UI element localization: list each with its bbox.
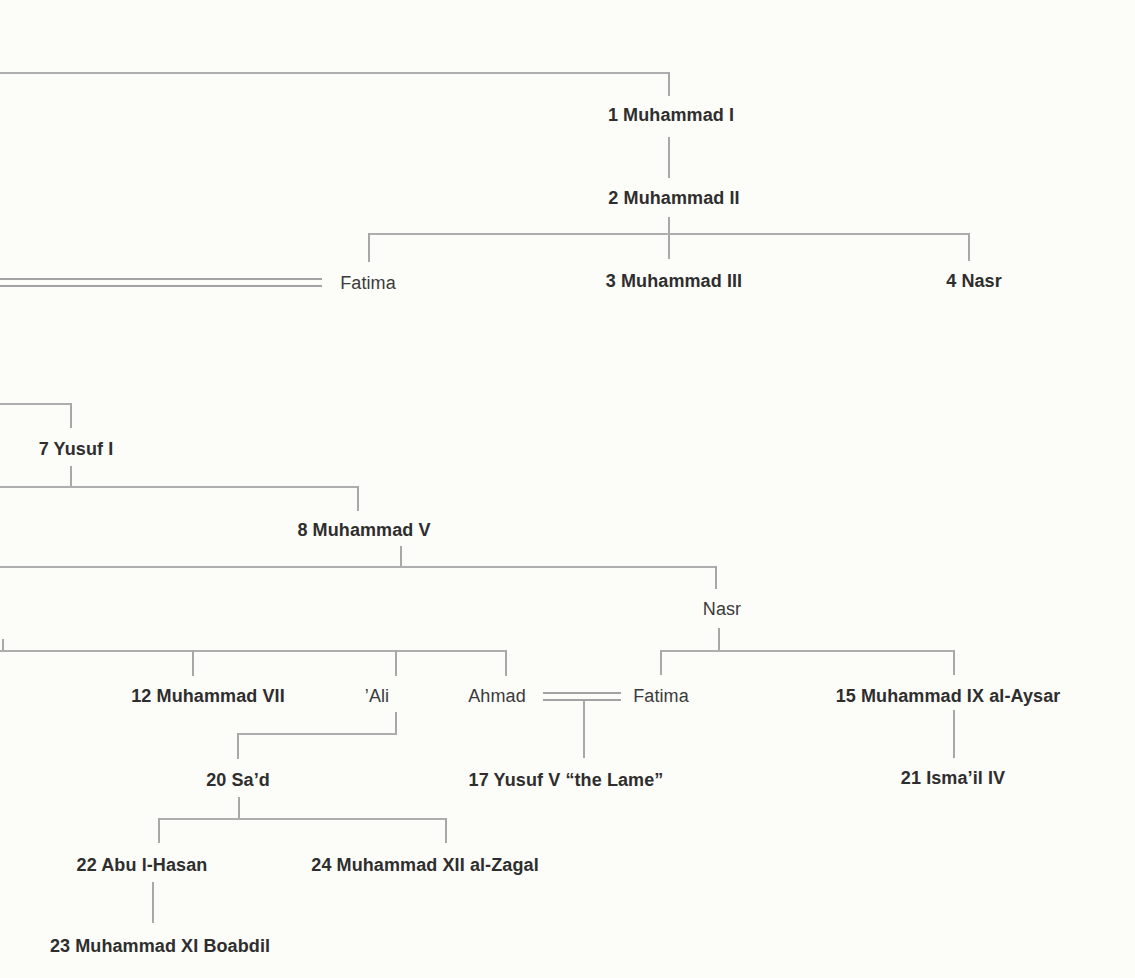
line-drop-nasr — [715, 566, 717, 589]
family-tree-diagram: 1 Muhammad I 2 Muhammad II Fatima 3 Muha… — [0, 0, 1135, 978]
line-drop-muhammad-i — [668, 72, 670, 96]
marriage-line-fatima-1 — [0, 278, 322, 287]
line-nasr-down — [718, 628, 720, 651]
line-drop-ahmad — [505, 650, 507, 676]
line-siblings-gen2 — [368, 233, 970, 235]
person-muhammad-ix: 15 Muhammad IX al-Aysar — [836, 686, 1061, 706]
person-nasr: Nasr — [703, 599, 741, 619]
line-drop-abu-l-hasan — [158, 818, 160, 843]
line-drop-ali — [395, 650, 397, 676]
person-sad: 20 Sa’d — [206, 770, 270, 790]
line-drop-muhammad-ix — [953, 650, 955, 675]
line-drop-fatima-2 — [660, 650, 662, 675]
person-muhammad-xi: 23 Muhammad XI Boabdil — [50, 936, 270, 956]
line-abu-l-hasan-down — [152, 882, 154, 923]
line-drop-nasr-iv — [968, 233, 970, 261]
person-muhammad-v: 8 Muhammad V — [297, 520, 430, 540]
person-muhammad-xii: 24 Muhammad XII al-Zagal — [311, 855, 538, 875]
line-marriage-to-yusuf-v — [583, 700, 585, 758]
line-siblings-left-group — [0, 650, 507, 652]
line-yusuf-i-down — [70, 466, 72, 487]
line-children-nasr — [660, 650, 955, 652]
line-children-sad — [158, 818, 447, 820]
line-muhammad-v-down — [400, 546, 402, 567]
line-drop-muhammad-vii — [192, 650, 194, 676]
person-ahmad: Ahmad — [468, 686, 526, 706]
person-yusuf-v: 17 Yusuf V “the Lame” — [469, 770, 664, 790]
person-fatima-2: Fatima — [633, 686, 689, 706]
line-ali-down — [395, 712, 397, 735]
person-muhammad-ii: 2 Muhammad II — [608, 188, 739, 208]
person-nasr-iv: 4 Nasr — [946, 271, 1002, 291]
line-drop-muhammad-xii — [445, 818, 447, 843]
person-ismail-iv: 21 Isma’il IV — [901, 768, 1005, 788]
person-muhammad-i: 1 Muhammad I — [608, 105, 734, 125]
line-children-yusuf-i — [0, 486, 359, 488]
line-ancestor-top — [0, 72, 670, 74]
marriage-line-ahmad-fatima — [543, 692, 621, 701]
line-drop-fatima-1 — [368, 233, 370, 262]
person-ali: ’Ali — [365, 686, 389, 706]
person-yusuf-i: 7 Yusuf I — [39, 439, 114, 459]
line-drop-muhammad-v — [357, 486, 359, 511]
line-children-muhammad-v — [0, 566, 717, 568]
line-drop-sad — [237, 733, 239, 759]
person-muhammad-iii: 3 Muhammad III — [606, 271, 742, 291]
line-muhammad-ix-down — [953, 710, 955, 758]
person-fatima-1: Fatima — [340, 273, 396, 293]
line-muhammad-i-to-ii — [668, 137, 670, 178]
person-muhammad-vii: 12 Muhammad VII — [131, 686, 285, 706]
line-to-yusuf-i — [0, 403, 72, 405]
line-muhammad-ii-down — [668, 217, 670, 259]
person-abu-l-hasan: 22 Abu l-Hasan — [77, 855, 208, 875]
line-sad-down — [238, 797, 240, 818]
line-drop-yusuf-i — [70, 403, 72, 428]
line-elbow-ali-sad — [237, 733, 397, 735]
